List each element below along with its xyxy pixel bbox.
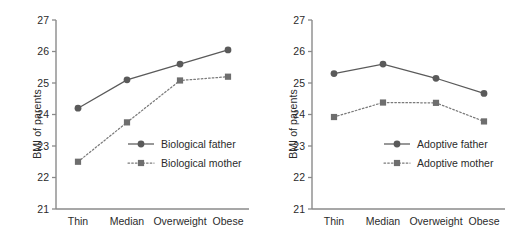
data-point-marker: [124, 119, 130, 125]
y-tick-label: 24: [293, 108, 305, 120]
chart-panel-right: BMI of parents 21222324252627ThinMedianO…: [256, 0, 512, 247]
data-point-marker: [481, 118, 487, 124]
legend-marker: [138, 160, 144, 166]
data-point-marker: [225, 47, 232, 54]
x-tick-label: Median: [110, 215, 145, 227]
data-point-marker: [331, 114, 337, 120]
y-tick-label: 22: [293, 171, 305, 183]
data-point-marker: [433, 100, 439, 106]
data-point-marker: [75, 105, 82, 112]
plot-area-right: 21222324252627ThinMedianOverweightObeseA…: [256, 0, 512, 247]
y-tick-label: 23: [37, 140, 49, 152]
figure-container: BMI of parents 21222324252627ThinMedianO…: [0, 0, 513, 247]
legend-marker: [138, 141, 145, 148]
y-tick-label: 24: [37, 108, 49, 120]
x-tick-label: Obese: [469, 215, 500, 227]
y-tick-label: 22: [37, 171, 49, 183]
legend-label: Adoptive father: [417, 138, 488, 150]
y-tick-label: 27: [293, 14, 305, 26]
y-tick-label: 23: [293, 140, 305, 152]
y-tick-label: 27: [37, 14, 49, 26]
data-point-marker: [177, 77, 183, 83]
legend-marker: [394, 141, 401, 148]
data-point-marker: [481, 90, 488, 97]
y-tick-label: 26: [293, 45, 305, 57]
x-tick-label: Obese: [213, 215, 244, 227]
x-tick-label: Thin: [324, 215, 345, 227]
y-tick-label: 21: [293, 203, 305, 215]
y-tick-label: 26: [37, 45, 49, 57]
legend-label: Adoptive mother: [417, 157, 494, 169]
data-point-marker: [75, 159, 81, 165]
x-tick-label: Overweight: [153, 215, 206, 227]
y-tick-label: 25: [293, 77, 305, 89]
chart-panel-left: BMI of parents 21222324252627ThinMedianO…: [0, 0, 256, 247]
legend-label: Biological mother: [161, 157, 242, 169]
legend-label: Biological father: [161, 138, 236, 150]
data-point-marker: [433, 75, 440, 82]
y-tick-label: 21: [37, 203, 49, 215]
legend-marker: [394, 160, 400, 166]
data-point-marker: [177, 61, 184, 68]
y-tick-label: 25: [37, 77, 49, 89]
plot-area-left: 21222324252627ThinMedianOverweightObeseB…: [0, 0, 256, 247]
data-point-marker: [380, 99, 386, 105]
x-tick-label: Thin: [68, 215, 89, 227]
data-point-marker: [380, 61, 387, 68]
x-tick-label: Median: [366, 215, 401, 227]
data-point-marker: [331, 70, 338, 77]
data-point-marker: [124, 76, 131, 83]
x-tick-label: Overweight: [409, 215, 462, 227]
data-point-marker: [225, 74, 231, 80]
